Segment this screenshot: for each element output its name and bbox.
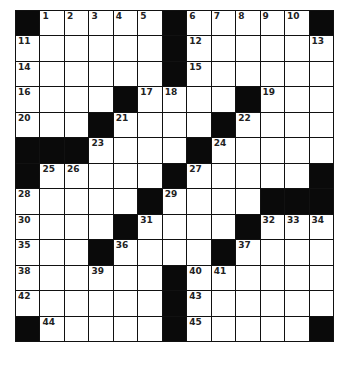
crossword-cell[interactable] <box>212 164 235 188</box>
crossword-cell[interactable] <box>285 317 308 341</box>
crossword-cell[interactable]: 3 <box>89 11 112 35</box>
crossword-cell[interactable] <box>236 189 259 213</box>
crossword-cell[interactable] <box>114 164 137 188</box>
crossword-cell[interactable] <box>261 317 284 341</box>
crossword-cell[interactable]: 29 <box>163 189 186 213</box>
crossword-cell[interactable] <box>114 189 137 213</box>
crossword-cell[interactable]: 34 <box>310 215 333 239</box>
crossword-cell[interactable] <box>89 189 112 213</box>
crossword-cell[interactable]: 10 <box>285 11 308 35</box>
crossword-cell[interactable] <box>89 164 112 188</box>
crossword-cell[interactable]: 4 <box>114 11 137 35</box>
crossword-cell[interactable] <box>212 62 235 86</box>
crossword-cell[interactable] <box>40 36 63 60</box>
crossword-cell[interactable] <box>114 291 137 315</box>
crossword-cell[interactable] <box>163 138 186 162</box>
crossword-cell[interactable] <box>285 164 308 188</box>
crossword-cell[interactable] <box>236 138 259 162</box>
crossword-cell[interactable] <box>89 62 112 86</box>
crossword-cell[interactable]: 41 <box>212 266 235 290</box>
crossword-cell[interactable] <box>187 87 210 111</box>
crossword-cell[interactable]: 1 <box>40 11 63 35</box>
crossword-cell[interactable] <box>138 138 161 162</box>
crossword-cell[interactable] <box>40 291 63 315</box>
crossword-cell[interactable]: 24 <box>212 138 235 162</box>
crossword-cell[interactable]: 20 <box>16 113 39 137</box>
crossword-cell[interactable] <box>138 62 161 86</box>
crossword-cell[interactable]: 31 <box>138 215 161 239</box>
crossword-cell[interactable] <box>65 266 88 290</box>
crossword-cell[interactable] <box>65 62 88 86</box>
crossword-cell[interactable] <box>138 113 161 137</box>
crossword-cell[interactable] <box>163 113 186 137</box>
crossword-cell[interactable] <box>310 266 333 290</box>
crossword-cell[interactable] <box>65 189 88 213</box>
crossword-cell[interactable] <box>285 87 308 111</box>
crossword-cell[interactable]: 11 <box>16 36 39 60</box>
crossword-cell[interactable]: 39 <box>89 266 112 290</box>
crossword-cell[interactable] <box>236 62 259 86</box>
crossword-cell[interactable]: 19 <box>261 87 284 111</box>
crossword-cell[interactable]: 36 <box>114 240 137 264</box>
crossword-cell[interactable] <box>114 62 137 86</box>
crossword-cell[interactable] <box>310 291 333 315</box>
crossword-cell[interactable]: 23 <box>89 138 112 162</box>
crossword-cell[interactable] <box>310 87 333 111</box>
crossword-cell[interactable]: 45 <box>187 317 210 341</box>
crossword-cell[interactable]: 14 <box>16 62 39 86</box>
crossword-cell[interactable] <box>138 36 161 60</box>
crossword-cell[interactable]: 40 <box>187 266 210 290</box>
crossword-cell[interactable]: 35 <box>16 240 39 264</box>
crossword-cell[interactable] <box>212 189 235 213</box>
crossword-cell[interactable] <box>212 291 235 315</box>
crossword-cell[interactable] <box>163 240 186 264</box>
crossword-cell[interactable] <box>138 291 161 315</box>
crossword-cell[interactable] <box>40 215 63 239</box>
crossword-cell[interactable]: 28 <box>16 189 39 213</box>
crossword-cell[interactable] <box>261 240 284 264</box>
crossword-cell[interactable] <box>138 266 161 290</box>
crossword-cell[interactable] <box>285 266 308 290</box>
crossword-cell[interactable] <box>310 138 333 162</box>
crossword-cell[interactable]: 6 <box>187 11 210 35</box>
crossword-cell[interactable] <box>261 113 284 137</box>
crossword-cell[interactable]: 18 <box>163 87 186 111</box>
crossword-cell[interactable] <box>261 164 284 188</box>
crossword-cell[interactable] <box>163 215 186 239</box>
crossword-cell[interactable] <box>310 113 333 137</box>
crossword-cell[interactable] <box>138 164 161 188</box>
crossword-cell[interactable]: 37 <box>236 240 259 264</box>
crossword-cell[interactable] <box>261 291 284 315</box>
crossword-cell[interactable] <box>285 113 308 137</box>
crossword-cell[interactable] <box>285 291 308 315</box>
crossword-cell[interactable] <box>187 189 210 213</box>
crossword-cell[interactable] <box>114 36 137 60</box>
crossword-cell[interactable]: 16 <box>16 87 39 111</box>
crossword-cell[interactable] <box>65 317 88 341</box>
crossword-cell[interactable]: 26 <box>65 164 88 188</box>
crossword-cell[interactable]: 22 <box>236 113 259 137</box>
crossword-cell[interactable] <box>65 87 88 111</box>
crossword-cell[interactable] <box>236 36 259 60</box>
crossword-cell[interactable]: 21 <box>114 113 137 137</box>
crossword-cell[interactable] <box>89 36 112 60</box>
crossword-cell[interactable] <box>65 36 88 60</box>
crossword-cell[interactable] <box>212 215 235 239</box>
crossword-cell[interactable] <box>212 87 235 111</box>
crossword-cell[interactable] <box>40 240 63 264</box>
crossword-cell[interactable] <box>187 215 210 239</box>
crossword-cell[interactable]: 2 <box>65 11 88 35</box>
crossword-cell[interactable] <box>65 215 88 239</box>
crossword-cell[interactable] <box>89 291 112 315</box>
crossword-cell[interactable]: 38 <box>16 266 39 290</box>
crossword-cell[interactable] <box>65 113 88 137</box>
crossword-cell[interactable] <box>89 317 112 341</box>
crossword-cell[interactable]: 44 <box>40 317 63 341</box>
crossword-cell[interactable] <box>310 62 333 86</box>
crossword-cell[interactable]: 30 <box>16 215 39 239</box>
crossword-cell[interactable]: 15 <box>187 62 210 86</box>
crossword-cell[interactable] <box>187 240 210 264</box>
crossword-cell[interactable] <box>114 266 137 290</box>
crossword-cell[interactable] <box>114 138 137 162</box>
crossword-cell[interactable] <box>236 317 259 341</box>
